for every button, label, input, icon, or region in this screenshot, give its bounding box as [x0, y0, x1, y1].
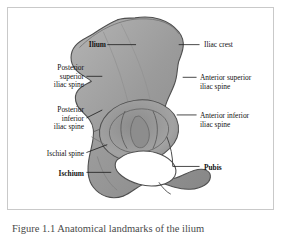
- label-ischial-spine: Ischial spine: [22, 150, 84, 159]
- label-pubis: Pubis: [204, 164, 274, 173]
- label-posterior-inferior-iliac-spine: Posterior inferior iliac spine: [22, 106, 84, 132]
- figure-root: Ilium Posterior superior iliac spine Pos…: [0, 0, 283, 236]
- label-anterior-superior-iliac-spine: Anterior superior iliac spine: [200, 74, 283, 91]
- label-anterior-inferior-iliac-spine: Anterior inferior iliac spine: [200, 112, 283, 129]
- label-ischium: Ischium: [30, 170, 84, 179]
- figure-caption: Figure 1.1 Anatomical landmarks of the i…: [12, 222, 274, 235]
- figure-frame: Ilium Posterior superior iliac spine Pos…: [7, 7, 274, 210]
- label-ilium: Ilium: [54, 41, 106, 50]
- label-iliac-crest: Iliac crest: [204, 41, 283, 50]
- label-posterior-superior-iliac-spine: Posterior superior iliac spine: [22, 64, 84, 90]
